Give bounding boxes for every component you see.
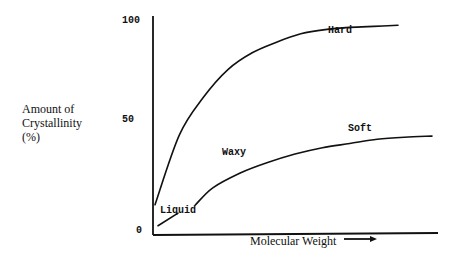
ylabel-line-1: Amount of [22,102,74,116]
crystallinity-diagram: Amount of Crystallinity (%) 100 50 0 Har… [0,0,458,261]
ylabel-line-2: Crystallinity [22,116,82,130]
ytick-50: 50 [122,114,134,125]
xlabel: Molecular Weight [250,234,337,248]
annotation-waxy: Waxy [222,147,246,158]
upper-curve [155,25,398,204]
ytick-100: 100 [122,15,140,26]
annotation-hard: Hard [328,25,352,36]
annotation-soft: Soft [348,123,372,134]
right-arrow-icon [344,236,377,242]
annotation-liquid: Liquid [160,205,196,216]
ytick-0: 0 [136,225,142,236]
ylabel-line-3: (%) [22,130,40,144]
